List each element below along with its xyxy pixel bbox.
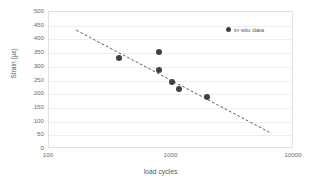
y-axis-tick-label: 450 bbox=[20, 21, 44, 28]
y-axis-tick-label: 250 bbox=[20, 76, 44, 83]
x-axis-tick-label: 10000 bbox=[277, 151, 309, 158]
filled-circle-marker-icon bbox=[226, 27, 231, 32]
y-axis-tick-label: 350 bbox=[20, 48, 44, 55]
gridline bbox=[49, 122, 292, 123]
y-axis-tick-label: 400 bbox=[20, 34, 44, 41]
chart-container: Strain (µε) 0501001502002503003504004505… bbox=[0, 0, 321, 188]
data-point bbox=[156, 49, 162, 55]
data-point bbox=[204, 94, 210, 100]
gridline bbox=[49, 135, 292, 136]
chart-legend: in-situ data bbox=[226, 26, 264, 33]
y-axis-tick-label: 200 bbox=[20, 89, 44, 96]
gridline bbox=[49, 67, 292, 68]
y-axis-title: Strain (µε) bbox=[10, 29, 17, 99]
gridline bbox=[49, 53, 292, 54]
x-axis-title: load cycles bbox=[0, 168, 321, 175]
gridline bbox=[49, 108, 292, 109]
x-axis-tick-label: 1000 bbox=[155, 151, 187, 158]
y-axis-tick-label: 300 bbox=[20, 62, 44, 69]
data-point bbox=[169, 79, 175, 85]
y-axis-tick-label: 150 bbox=[20, 103, 44, 110]
y-axis-tick-label: 0 bbox=[20, 144, 44, 151]
data-point bbox=[156, 67, 162, 73]
legend-label: in-situ data bbox=[234, 26, 264, 33]
x-axis-tick-label: 100 bbox=[32, 151, 64, 158]
y-axis-tick-label: 50 bbox=[20, 130, 44, 137]
gridline bbox=[49, 39, 292, 40]
y-axis-tick-label: 500 bbox=[20, 7, 44, 14]
y-axis-tick-label: 100 bbox=[20, 117, 44, 124]
data-point bbox=[116, 55, 122, 61]
gridline bbox=[49, 94, 292, 95]
data-point bbox=[176, 86, 182, 92]
